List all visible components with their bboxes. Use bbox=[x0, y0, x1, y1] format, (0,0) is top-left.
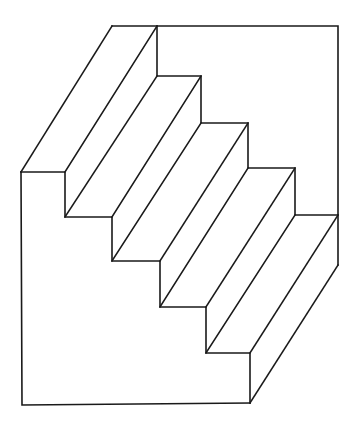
outer-frame-edge bbox=[21, 172, 250, 405]
staircase-lines bbox=[21, 26, 338, 405]
depth-edge bbox=[250, 215, 338, 353]
depth-edge bbox=[65, 26, 157, 172]
back-step-profile bbox=[112, 26, 338, 265]
depth-edge bbox=[112, 76, 201, 217]
depth-edge bbox=[112, 123, 201, 261]
depth-edge bbox=[250, 265, 338, 403]
depth-edge bbox=[65, 76, 157, 217]
depth-edge bbox=[160, 168, 248, 307]
front-step-profile bbox=[21, 172, 250, 403]
depth-edge bbox=[206, 168, 295, 307]
depth-edge bbox=[21, 26, 112, 172]
back-wall-edge bbox=[157, 26, 338, 215]
depth-edge bbox=[206, 215, 295, 353]
schroeder-staircase bbox=[0, 0, 355, 426]
depth-edge bbox=[160, 123, 248, 261]
